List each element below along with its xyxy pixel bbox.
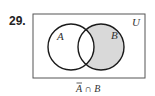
set-a-label: A [56, 30, 64, 42]
caption-rest: ∩ B [82, 83, 100, 94]
caption: A ∩ B [75, 83, 100, 94]
universe-label: U [132, 16, 141, 28]
set-b-label: B [111, 29, 118, 41]
venn-diagram: A B U A ∩ B [0, 0, 155, 96]
